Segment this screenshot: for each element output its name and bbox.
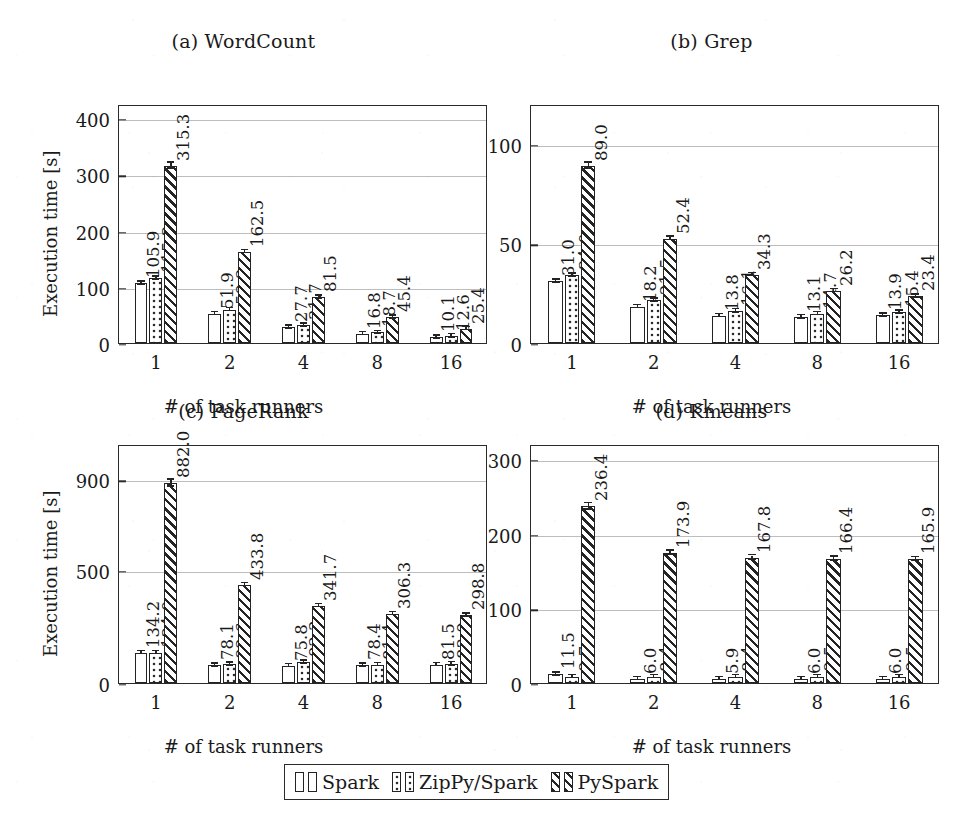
x-tick-label: 1 (566, 692, 577, 713)
error-bar-cap (315, 606, 322, 607)
bar-value-label: 34.3 (757, 233, 774, 270)
bar (712, 316, 726, 343)
bar (149, 653, 162, 683)
bar (208, 314, 221, 343)
grid-line (119, 481, 486, 482)
error-bar-cap (448, 661, 455, 662)
y-tick-mark (531, 535, 538, 536)
error-bar-cap (137, 280, 144, 281)
bar-value-label: 165.9 (921, 507, 938, 554)
error-bar-cap (797, 676, 805, 677)
bar (908, 559, 922, 683)
x-tick-label: 16 (440, 352, 463, 373)
y-tick-mark (531, 245, 538, 246)
error-bar-cap (715, 316, 723, 317)
panel-title: (b) Grep (470, 30, 953, 52)
bar (282, 666, 295, 683)
error-bar-cap (911, 293, 919, 294)
error-bar-cap (830, 560, 838, 561)
figure-canvas: (a) WordCount Execution time [s] 0100200… (0, 0, 953, 825)
error-bar-cap (241, 585, 248, 586)
plot-area: 05009001134.2134.0882.0278.182.6433.8475… (118, 445, 487, 684)
error-bar-cap (797, 679, 805, 680)
error-bar-cap (552, 671, 560, 672)
error-bar-cap (895, 309, 903, 310)
error-bar-cap (285, 663, 292, 664)
error-bar-cap (911, 560, 919, 561)
error-bar-cap (226, 307, 233, 308)
error-bar-cap (633, 304, 641, 305)
bar-value-label: 89.0 (594, 124, 611, 161)
error-bar-cap (167, 167, 174, 168)
bar-value-label: 162.5 (250, 199, 267, 246)
error-bar-cap (633, 676, 641, 677)
error-bar-cap (732, 308, 740, 309)
x-axis-label: # of task runners (470, 736, 953, 757)
bar-value-label: 81.5 (323, 255, 340, 292)
error-bar-cap (433, 665, 440, 666)
error-bar-cap (167, 485, 174, 486)
bar (647, 300, 661, 343)
error-bar-cap (226, 310, 233, 311)
bar (297, 662, 310, 683)
bar (565, 275, 579, 343)
bar (282, 327, 295, 343)
x-tick-label: 8 (812, 692, 823, 713)
error-bar-cap (359, 662, 366, 663)
x-tick-label: 16 (440, 692, 463, 713)
bar (663, 239, 677, 343)
error-bar-cap (911, 556, 919, 557)
bar (371, 665, 384, 683)
y-tick-label: 0 (99, 675, 110, 696)
legend-label: Spark (322, 771, 379, 793)
panel-title: (a) WordCount (0, 30, 487, 52)
error-bar-cap (748, 558, 756, 559)
error-bar-cap (300, 659, 307, 660)
error-bar-cap (226, 661, 233, 662)
error-bar-cap (830, 291, 838, 292)
error-bar-cap (285, 328, 292, 329)
error-bar-cap (448, 664, 455, 665)
x-tick-label: 2 (648, 352, 659, 373)
error-bar-cap (732, 677, 740, 678)
bar (164, 483, 177, 683)
error-bar-cap (715, 313, 723, 314)
error-bar-cap (152, 650, 159, 651)
error-bar-cap (241, 249, 248, 250)
error-bar-cap (462, 612, 469, 613)
error-bar-cap (389, 314, 396, 315)
legend-swatch (564, 772, 573, 792)
error-bar-cap (285, 324, 292, 325)
y-tick-mark (119, 571, 126, 572)
bar (430, 665, 443, 683)
y-tick-mark (119, 176, 126, 177)
bar-value-label: 315.3 (176, 113, 193, 160)
panel-pagerank: (c) PageRank Execution time [s] 05009001… (0, 400, 487, 750)
bar (745, 275, 759, 343)
y-tick-mark (119, 232, 126, 233)
bar (826, 559, 840, 683)
error-bar-cap (211, 314, 218, 315)
error-bar-cap (448, 336, 455, 337)
error-bar-cap (584, 167, 592, 168)
chart-legend: SparkZipPy/SparkPySpark (284, 764, 669, 800)
error-bar-cap (374, 330, 381, 331)
error-bar-cap (830, 555, 838, 556)
plot-area: 050100131.034.089.0218.221.552.4413.816.… (530, 105, 939, 344)
x-tick-label: 2 (648, 692, 659, 713)
panel-wordcount: (a) WordCount Execution time [s] 0100200… (0, 30, 487, 380)
y-tick-label: 200 (488, 525, 522, 546)
y-tick-mark (119, 480, 126, 481)
panel-kmeans: (d) Kmeans 0100200300111.58.7236.426.08.… (470, 400, 953, 750)
error-bar-cap (552, 281, 560, 282)
x-tick-label: 16 (888, 352, 911, 373)
bar-value-label: 167.8 (757, 505, 774, 552)
error-bar-cap (211, 666, 218, 667)
bar (297, 325, 310, 343)
error-bar-cap (315, 294, 322, 295)
y-tick-label: 200 (76, 222, 110, 243)
error-bar-cap (211, 311, 218, 312)
error-bar-cap (568, 674, 576, 675)
plot-area: 01002003004001105.9115.3315.3251.959.216… (118, 105, 487, 344)
error-bar-cap (462, 326, 469, 327)
